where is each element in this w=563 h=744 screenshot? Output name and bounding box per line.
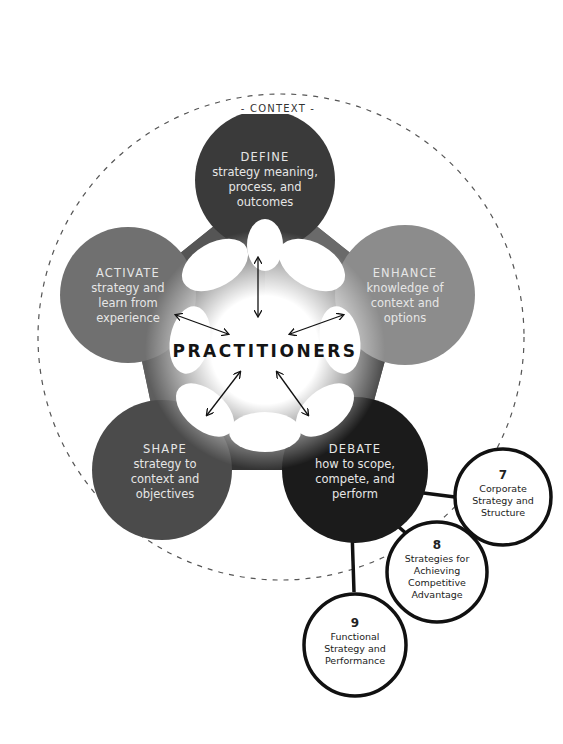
debate-desc: how to scope, compete, and perform [298, 457, 412, 502]
define-desc: strategy meaning, process, and outcomes [200, 165, 330, 210]
debate-title: DEBATE [298, 442, 412, 457]
activate-desc: strategy and learn from experience [80, 281, 176, 326]
chapter-7: 7 Corporate Strategy and Structure [465, 468, 541, 519]
chapter-9-number: 9 [313, 616, 397, 631]
practitioners-label: PRACTITIONERS [150, 341, 380, 361]
shape-title: SHAPE [115, 442, 215, 457]
chapter-8-number: 8 [398, 538, 476, 553]
debate-node: DEBATE how to scope, compete, and perfor… [298, 442, 412, 502]
chapter-8-title: Strategies for Achieving Competitive Adv… [405, 553, 470, 600]
context-label: - CONTEXT - [238, 103, 318, 114]
chapter-7-title: Corporate Strategy and Structure [472, 483, 534, 518]
define-node: DEFINE strategy meaning, process, and ou… [200, 150, 330, 210]
chapter-8: 8 Strategies for Achieving Competitive A… [398, 538, 476, 601]
shape-node: SHAPE strategy to context and objectives [115, 442, 215, 502]
chapter-9: 9 Functional Strategy and Performance [313, 616, 397, 667]
activate-node: ACTIVATE strategy and learn from experie… [80, 266, 176, 326]
chapter-9-title: Functional Strategy and Performance [324, 631, 386, 666]
activate-title: ACTIVATE [80, 266, 176, 281]
shape-desc: strategy to context and objectives [115, 457, 215, 502]
chapter-7-number: 7 [465, 468, 541, 483]
define-title: DEFINE [200, 150, 330, 165]
enhance-desc: knowledge of context and options [352, 281, 458, 326]
enhance-title: ENHANCE [352, 266, 458, 281]
enhance-node: ENHANCE knowledge of context and options [352, 266, 458, 326]
